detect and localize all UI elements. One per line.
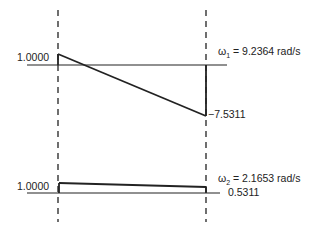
omega-subscript: 1 xyxy=(226,52,230,59)
mode1-shape-line xyxy=(58,54,206,116)
mode1-right-value: −7.5311 xyxy=(208,108,245,120)
mode1-left-value: 1.0000 xyxy=(17,51,49,63)
mode2-left-value: 1.0000 xyxy=(17,180,49,192)
omega-symbol: ω xyxy=(218,172,226,184)
frequency-value: = 9.2364 rad/s xyxy=(233,45,300,57)
omega-symbol: ω xyxy=(218,45,226,57)
frequency-value: = 2.1653 rad/s xyxy=(233,172,300,184)
mode-shape-diagram xyxy=(0,0,335,231)
mode1-frequency-label: ω1 = 9.2364 rad/s xyxy=(218,45,300,62)
mode2-shape-line xyxy=(59,183,206,187)
mode2-right-value: 0.5311 xyxy=(228,186,259,198)
